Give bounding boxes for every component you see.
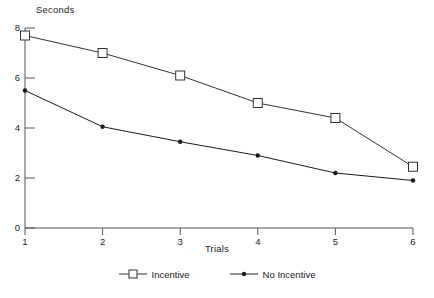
x-axis-ticks xyxy=(25,228,413,235)
legend-label-incentive: Incentive xyxy=(152,269,190,280)
x-axis-tick-label: 4 xyxy=(248,236,268,247)
data-point-square[interactable] xyxy=(21,31,30,40)
data-point-dot[interactable] xyxy=(411,178,415,182)
data-point-square[interactable] xyxy=(253,99,262,108)
series-no-incentive xyxy=(23,88,415,182)
y-axis-title: Seconds xyxy=(36,4,74,15)
data-point-dot[interactable] xyxy=(100,125,104,129)
x-axis-tick-label: 5 xyxy=(325,236,345,247)
axes xyxy=(25,28,413,228)
data-point-dot[interactable] xyxy=(178,140,182,144)
series-incentive xyxy=(21,31,418,171)
x-axis-tick-label: 6 xyxy=(403,236,423,247)
y-axis-tick-label: 8 xyxy=(4,22,20,33)
y-axis-tick-label: 4 xyxy=(4,122,20,133)
legend-entry-no-incentive[interactable]: No Incentive xyxy=(230,268,316,280)
chart-legend: Incentive No Incentive xyxy=(0,268,434,280)
series-line xyxy=(25,91,413,181)
data-point-square[interactable] xyxy=(176,71,185,80)
y-axis-tick-label: 6 xyxy=(4,72,20,83)
y-axis-ticks xyxy=(25,28,35,228)
x-axis-tick-label: 1 xyxy=(15,236,35,247)
data-series-group xyxy=(21,31,418,183)
data-point-dot[interactable] xyxy=(23,88,27,92)
data-point-square[interactable] xyxy=(98,49,107,58)
data-point-dot[interactable] xyxy=(333,171,337,175)
data-point-square[interactable] xyxy=(331,114,340,123)
x-axis-tick-label: 3 xyxy=(170,236,190,247)
x-axis-tick-label: 2 xyxy=(93,236,113,247)
x-axis-title: Trials xyxy=(0,243,434,254)
series-line xyxy=(25,36,413,167)
data-point-square[interactable] xyxy=(409,162,418,171)
legend-entry-incentive[interactable]: Incentive xyxy=(119,268,190,280)
line-chart: Seconds Trials 02468 123456 Incentive No… xyxy=(0,0,434,298)
legend-label-no-incentive: No Incentive xyxy=(263,269,316,280)
filled-dot-marker-icon xyxy=(230,268,258,280)
y-axis-tick-label: 0 xyxy=(4,222,20,233)
data-point-dot[interactable] xyxy=(256,153,260,157)
y-axis-tick-label: 2 xyxy=(4,172,20,183)
open-square-marker-icon xyxy=(119,268,147,280)
